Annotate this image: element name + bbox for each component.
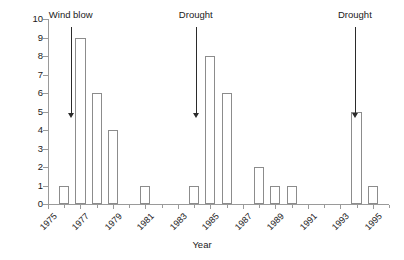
y-tick-label: 0 (9, 198, 43, 209)
bar-chart-figure: Volume killed (thousands) 012345678910 1… (0, 0, 404, 260)
annotation-arrow-head-icon (352, 113, 358, 118)
bar (222, 93, 232, 204)
x-tick-mark (178, 205, 179, 209)
y-tick-label: 10 (9, 13, 43, 24)
y-tick-label-wrap: 9 (0, 38, 43, 39)
annotation-label: Drought (338, 9, 372, 20)
x-tick-mark-minor (357, 205, 358, 208)
bar (270, 186, 280, 205)
y-tick-mark (43, 93, 48, 94)
bar (189, 186, 199, 205)
y-tick-label-wrap: 5 (0, 112, 43, 113)
annotation-arrow-line (355, 27, 356, 113)
y-tick-label-wrap: 2 (0, 167, 43, 168)
annotation-arrow-head-icon (193, 113, 199, 118)
bar (205, 56, 215, 204)
x-tick-mark-minor (324, 205, 325, 208)
y-tick-mark (43, 167, 48, 168)
annotation-arrow-line (196, 27, 197, 113)
y-tick-label: 3 (9, 143, 43, 154)
x-tick-mark (80, 205, 81, 209)
x-tick-mark (145, 205, 146, 209)
y-tick-label: 2 (9, 161, 43, 172)
y-tick-label-wrap: 3 (0, 149, 43, 150)
bar (287, 186, 297, 205)
annotation-label: Drought (179, 9, 213, 20)
annotation-arrow-line (71, 27, 72, 113)
y-tick-label: 8 (9, 50, 43, 61)
y-tick-label-wrap: 10 (0, 19, 43, 20)
x-tick-mark (308, 205, 309, 209)
x-tick-mark-minor (129, 205, 130, 208)
y-tick-mark (43, 56, 48, 57)
y-tick-label: 1 (9, 180, 43, 191)
y-tick-label: 4 (9, 124, 43, 135)
bar (92, 93, 102, 204)
x-tick-mark-minor (194, 205, 195, 208)
y-tick-label: 6 (9, 87, 43, 98)
x-tick-mark-minor (97, 205, 98, 208)
y-tick-label-wrap: 7 (0, 75, 43, 76)
y-tick-mark (43, 19, 48, 20)
bar (351, 112, 361, 205)
annotation-arrow-head-icon (68, 113, 74, 118)
y-tick-mark (43, 149, 48, 150)
y-tick-label-wrap: 8 (0, 56, 43, 57)
x-tick-mark-minor (227, 205, 228, 208)
bar (254, 167, 264, 204)
y-tick-label-wrap: 1 (0, 186, 43, 187)
x-tick-mark (275, 205, 276, 209)
y-tick-mark (43, 130, 48, 131)
x-tick-mark-minor (292, 205, 293, 208)
y-tick-label: 9 (9, 32, 43, 43)
bar (368, 186, 378, 205)
x-tick-mark (340, 205, 341, 209)
y-tick-label: 5 (9, 106, 43, 117)
y-tick-mark (43, 38, 48, 39)
y-tick-label-wrap: 6 (0, 93, 43, 94)
x-tick-mark-minor (389, 205, 390, 208)
x-tick-mark-minor (162, 205, 163, 208)
x-tick-mark (48, 205, 49, 209)
bar (108, 130, 118, 204)
y-tick-label-wrap: 0 (0, 204, 43, 205)
annotation-label: Wind blow (49, 9, 93, 20)
x-tick-mark (113, 205, 114, 209)
x-tick-mark-minor (64, 205, 65, 208)
y-axis-line (48, 19, 49, 205)
y-tick-mark (43, 186, 48, 187)
y-tick-label-wrap: 4 (0, 130, 43, 131)
x-tick-mark-minor (259, 205, 260, 208)
x-tick-mark (373, 205, 374, 209)
bar (59, 186, 69, 205)
y-tick-mark (43, 75, 48, 76)
y-tick-mark (43, 112, 48, 113)
x-axis-line (48, 204, 389, 205)
x-axis-title: Year (0, 239, 404, 250)
y-tick-label: 7 (9, 69, 43, 80)
x-tick-mark (210, 205, 211, 209)
bar (140, 186, 150, 205)
bar (75, 38, 85, 205)
x-tick-mark (243, 205, 244, 209)
